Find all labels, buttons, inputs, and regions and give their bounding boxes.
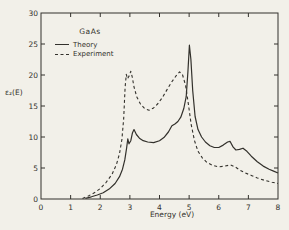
theory-line-sample-icon xyxy=(55,44,69,45)
y-tick-label: 20 xyxy=(28,71,38,80)
x-tick-label: 7 xyxy=(246,203,251,212)
legend-label-theory: Theory xyxy=(73,41,97,49)
y-tick-label: 25 xyxy=(28,40,38,49)
y-tick-label: 30 xyxy=(28,9,38,18)
x-tick-label: 0 xyxy=(39,203,44,212)
curve-experiment xyxy=(83,71,279,198)
y-tick-label: 0 xyxy=(33,195,38,204)
x-tick-label: 1 xyxy=(68,203,73,212)
figure-gaas-dielectric-spectrum: 012345678051015202530 GaAs Theory Experi… xyxy=(0,0,289,230)
y-tick-label: 10 xyxy=(28,133,38,142)
x-tick-label: 3 xyxy=(127,203,132,212)
chart-canvas: 012345678051015202530 xyxy=(0,0,289,230)
x-tick-label: 2 xyxy=(98,203,103,212)
legend: Theory Experiment xyxy=(55,40,113,59)
curve-theory xyxy=(85,45,278,198)
legend-entry-theory: Theory xyxy=(55,40,113,50)
y-axis-label: ε₂(E) xyxy=(5,89,23,97)
x-tick-label: 8 xyxy=(276,203,281,212)
y-tick-label: 5 xyxy=(33,164,38,173)
chart-title: GaAs xyxy=(68,28,112,36)
y-tick-label: 15 xyxy=(28,102,38,111)
experiment-line-sample-icon xyxy=(55,54,69,55)
legend-entry-experiment: Experiment xyxy=(55,50,113,60)
x-tick-label: 6 xyxy=(216,203,221,212)
x-axis-label: Energy (eV) xyxy=(140,211,204,219)
legend-label-experiment: Experiment xyxy=(73,50,113,58)
